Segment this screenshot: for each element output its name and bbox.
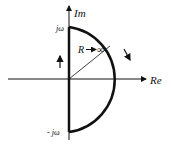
nyquist-contour-diagram: R ∞ Im Re jω - jω [0, 0, 171, 145]
top-point-label: jω [55, 24, 64, 33]
radius-label: R [77, 44, 84, 55]
imaginary-axis-label: Im [73, 7, 86, 19]
real-axis-label: Re [149, 74, 162, 86]
infinity-label: ∞ [97, 44, 104, 55]
bottom-point-label: - jω [47, 128, 60, 137]
arrow-down-right-icon [124, 49, 130, 60]
